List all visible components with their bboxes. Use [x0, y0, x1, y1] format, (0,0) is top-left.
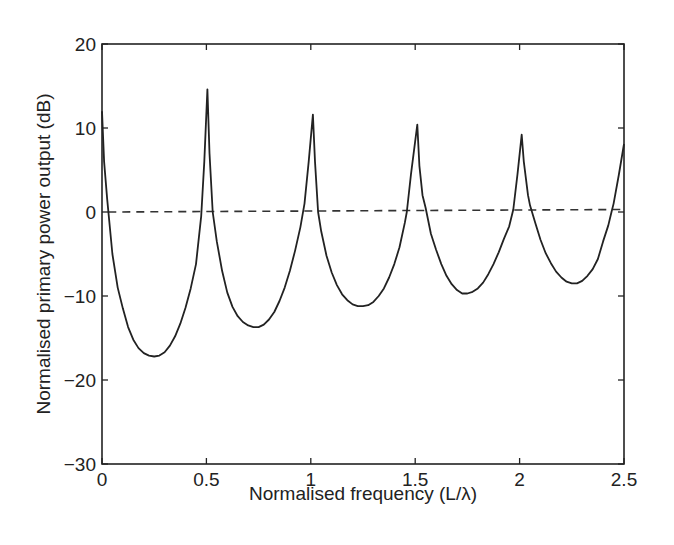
x-axis-label: Normalised frequency (L/λ) [249, 483, 477, 504]
x-tick-label: 2.5 [611, 469, 637, 490]
y-tick-label: 10 [75, 118, 96, 139]
y-tick-label: −20 [64, 370, 96, 391]
zero-db-reference-line [108, 210, 624, 213]
plot-area: 00.511.522.5 −30−20−1001020 [64, 34, 637, 490]
y-tick-label: 20 [75, 34, 96, 55]
x-tick-label: 2 [514, 469, 525, 490]
y-tick-label: −10 [64, 286, 96, 307]
x-tick-label: 0.5 [193, 469, 219, 490]
x-tick-label: 0 [97, 469, 108, 490]
primary-power-curve [102, 89, 624, 356]
y-tick-labels: −30−20−1001020 [64, 34, 96, 475]
y-axis-label: Normalised primary power output (dB) [33, 93, 54, 414]
chart: 00.511.522.5 −30−20−1001020 Normalised f… [0, 0, 674, 545]
y-tick-label: 0 [85, 202, 96, 223]
y-tick-label: −30 [64, 454, 96, 475]
